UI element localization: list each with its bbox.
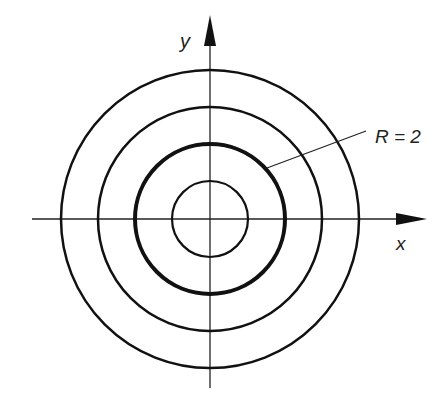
y-axis-label: y [178,30,191,52]
annotation-leader-line [267,131,366,168]
x-axis-arrow-icon [396,213,427,225]
y-axis-arrow-icon [204,15,216,46]
x-axis-label: x [395,233,407,254]
diagram-canvas: y x R = 2 [0,0,448,402]
annotation-label: R = 2 [375,126,421,147]
x-axis [32,213,427,225]
diagram-svg: y x R = 2 [0,0,448,402]
